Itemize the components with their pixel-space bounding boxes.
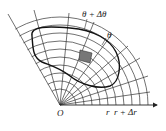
radius-label-r-plus-dr: r + Δr — [114, 107, 137, 117]
radius-label-r: r — [106, 107, 110, 117]
shaded-area-element — [79, 50, 92, 63]
angle-label-theta-plus-dtheta: θ + Δθ — [82, 9, 107, 19]
origin-label: O — [57, 108, 64, 118]
polar-area-diagram: O r r + Δr θ + Δθ θ — [0, 0, 166, 131]
angle-label-theta: θ — [107, 30, 112, 40]
